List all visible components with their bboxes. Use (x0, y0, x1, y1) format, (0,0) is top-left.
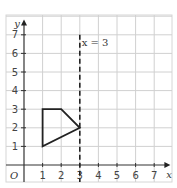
y-tick-label: 2 (12, 122, 18, 133)
y-axis-label: y (13, 18, 20, 29)
y-tick-label: 4 (12, 85, 18, 96)
x-tick-label: 1 (39, 170, 45, 181)
dashed-line-label: x = 3 (82, 37, 109, 48)
annotations: x = 3 (80, 35, 109, 182)
x-tick-label: 5 (114, 170, 120, 181)
y-tick-label: 5 (12, 67, 18, 78)
y-tick-label: 7 (12, 29, 18, 40)
coordinate-grid-chart: xyO 12345671234567 x = 3 (0, 0, 177, 188)
origin-label: O (10, 170, 18, 181)
x-axis-arrow-icon (164, 162, 170, 168)
x-tick-label: 2 (58, 170, 64, 181)
x-tick-label: 6 (132, 170, 138, 181)
y-tick-label: 1 (12, 141, 18, 152)
x-tick-label: 4 (95, 170, 101, 181)
y-tick-label: 6 (12, 48, 18, 59)
y-tick-label: 3 (12, 104, 18, 115)
y-axis-arrow-icon (21, 20, 27, 26)
x-tick-label: 7 (151, 170, 157, 181)
x-axis-label: x (166, 169, 172, 180)
